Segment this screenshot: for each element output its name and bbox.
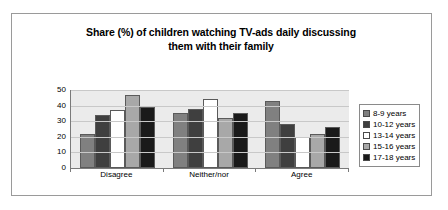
y-axis-tick-label: 40 [48,102,66,110]
legend-swatch [363,154,370,161]
x-axis-tick [70,169,71,172]
legend-swatch [363,132,370,139]
legend-item: 10-12 years [363,119,415,130]
y-axis-tick-label: 10 [48,148,66,156]
bar [188,109,203,168]
legend-swatch [363,121,370,128]
legend-item: 15-16 years [363,141,415,152]
legend-label: 8-9 years [373,109,406,118]
x-axis-tick [348,169,349,172]
bar [310,134,325,168]
bar-groups [71,90,349,168]
bar-group [256,90,349,168]
bar [218,118,233,168]
bar [95,115,110,168]
x-axis-category-label: Agree [255,170,348,179]
chart-title-line-1: Share (%) of children watching TV-ads da… [40,25,402,39]
gridline [71,152,349,153]
bar [80,134,95,168]
legend-item: 17-18 years [363,152,415,163]
plot-area [70,90,349,169]
legend-swatch [363,143,370,150]
y-axis-tick-label: 20 [48,133,66,141]
gridline [71,121,349,122]
chart-title: Share (%) of children watching TV-ads da… [40,25,402,53]
gridline [71,137,349,138]
gridline [71,90,349,91]
bar [265,101,280,168]
bar [325,127,340,168]
chart-frame: Share (%) of children watching TV-ads da… [11,13,432,196]
gridline [71,106,349,107]
legend-label: 15-16 years [373,142,415,151]
y-axis-tick-label: 50 [48,86,66,94]
bar [110,110,125,168]
y-axis-tick-label: 0 [48,164,66,172]
bar-group [71,90,164,168]
x-axis-category-label: Neither/nor [163,170,256,179]
x-axis-category-label: Disagree [70,170,163,179]
y-axis: 50403020100 [48,90,66,168]
x-axis-tick [163,169,164,172]
legend-label: 17-18 years [373,153,415,162]
legend-label: 13-14 years [373,131,415,140]
legend-item: 8-9 years [363,108,415,119]
legend-item: 13-14 years [363,130,415,141]
y-axis-tick-label: 30 [48,117,66,125]
legend-swatch [363,110,370,117]
bar [203,99,218,168]
chart-legend: 8-9 years10-12 years13-14 years15-16 yea… [359,104,420,167]
chart-title-line-2: them with their family [40,39,402,53]
plot-wrapper: 50403020100 DisagreeNeither/norAgree [48,90,348,174]
x-axis: DisagreeNeither/norAgree [70,170,348,179]
legend-label: 10-12 years [373,120,415,129]
x-axis-tick [255,169,256,172]
bar [280,124,295,168]
bar-group [164,90,257,168]
